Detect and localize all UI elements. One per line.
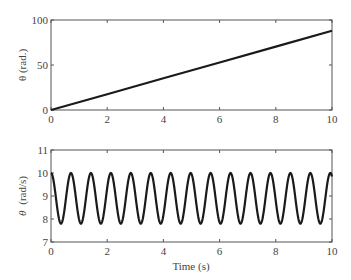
x-tick-label: 4 [161,245,167,257]
y-tick-label: 100 [32,14,49,26]
y-tick-label: 7 [43,236,49,248]
x-tick-label: 2 [104,113,110,125]
x-tick-label: 10 [327,113,339,125]
bottom-plot-frame [51,150,332,242]
theta-dot-line [51,173,332,224]
x-tick-label: 10 [327,245,339,257]
theta-line [51,31,332,110]
y-tick-label: 8 [43,213,49,225]
x-tick-label: 8 [273,245,279,257]
bottom-y-axis-label: θ (rad/s) [16,176,29,216]
bottom-y-axis: 7891011 [37,144,332,248]
bottom-x-axis: 0246810 [48,150,338,257]
chart-figure: 0246810 050100 θ (rad.) 0246810 7891011 … [0,0,351,280]
x-tick-label: 2 [104,245,110,257]
top-y-axis-label: θ (rad.) [16,49,29,81]
y-tick-label: 50 [37,59,49,71]
x-tick-label: 0 [48,245,54,257]
y-tick-label: 0 [43,104,49,116]
y-tick-label: 9 [43,190,49,202]
top-x-axis: 0246810 [48,20,338,125]
x-tick-label: 8 [273,113,279,125]
top-plot-frame [51,20,332,110]
bottom-plot: 0246810 7891011 θ (rad/s) Time (s) [16,144,338,273]
y-tick-label: 11 [37,144,48,156]
top-plot: 0246810 050100 θ (rad.) [16,14,338,125]
x-tick-label: 4 [161,113,167,125]
x-axis-label: Time (s) [172,260,210,273]
units: (rad/s) [16,176,29,205]
y-tick-label: 10 [37,167,49,179]
top-y-axis: 050100 [32,14,333,116]
x-tick-label: 6 [217,113,223,125]
x-tick-label: 0 [48,113,54,125]
x-tick-label: 6 [217,245,223,257]
theta-dot-symbol: θ [16,210,28,216]
